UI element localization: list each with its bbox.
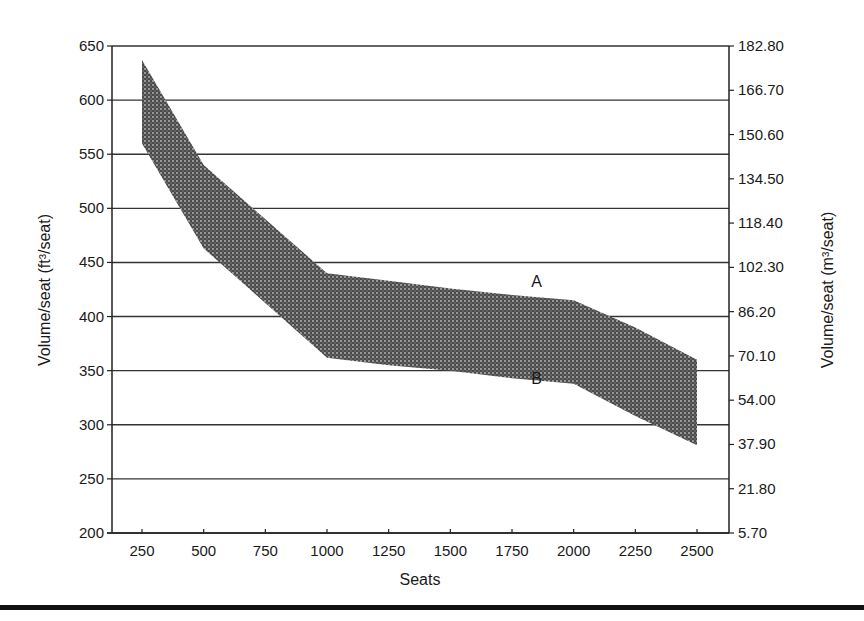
x-tick-label: 1250 — [372, 542, 405, 559]
annotation-label-a: A — [531, 273, 542, 290]
right-y-tick-label: 134.50 — [738, 170, 784, 187]
x-tick-label: 500 — [191, 542, 216, 559]
right-y-tick-label: 118.40 — [738, 214, 783, 231]
right-y-tick-label: 150.60 — [738, 126, 784, 143]
x-tick-label: 250 — [129, 542, 154, 559]
volume-per-seat-chart: 650600550500450400350300250200 182.80166… — [0, 0, 864, 621]
right-y-tick-label: 102.30 — [738, 258, 784, 275]
annotation-label-b: B — [531, 370, 542, 387]
left-y-axis-ticks: 650600550500450400350300250200 — [79, 37, 112, 541]
volume-band-area — [142, 60, 697, 445]
x-tick-label: 750 — [253, 542, 278, 559]
x-tick-label: 1000 — [310, 542, 343, 559]
right-y-tick-label: 54.00 — [738, 391, 776, 408]
y-tick-label: 350 — [79, 362, 104, 379]
x-tick-label: 2250 — [619, 542, 652, 559]
right-y-tick-label: 21.80 — [738, 480, 776, 497]
right-y-tick-label: 70.10 — [738, 347, 776, 364]
x-tick-label: 1500 — [434, 542, 467, 559]
y-tick-label: 650 — [79, 37, 104, 54]
right-y-tick-label: 5.70 — [738, 524, 767, 541]
right-y-axis-ticks: 182.80166.70150.60134.50118.40102.3086.2… — [729, 37, 784, 541]
y-tick-label: 500 — [79, 199, 104, 216]
right-y-axis-title: Volume/seat (m³/seat) — [819, 212, 836, 369]
x-tick-label: 2000 — [557, 542, 590, 559]
x-tick-label: 2500 — [680, 542, 713, 559]
y-tick-label: 200 — [79, 524, 104, 541]
x-axis-title: Seats — [400, 571, 441, 588]
bottom-rule — [0, 605, 864, 610]
y-tick-label: 300 — [79, 416, 104, 433]
y-tick-label: 400 — [79, 308, 104, 325]
right-y-tick-label: 182.80 — [738, 37, 784, 54]
y-tick-label: 450 — [79, 253, 104, 270]
y-tick-label: 550 — [79, 145, 104, 162]
right-y-tick-label: 86.20 — [738, 303, 776, 320]
x-tick-label: 1750 — [495, 542, 528, 559]
right-y-tick-label: 37.90 — [738, 435, 776, 452]
y-tick-label: 250 — [79, 470, 104, 487]
left-y-axis-title: Volume/seat (ft³/seat) — [36, 214, 53, 366]
right-y-tick-label: 166.70 — [738, 81, 784, 98]
y-tick-label: 600 — [79, 91, 104, 108]
